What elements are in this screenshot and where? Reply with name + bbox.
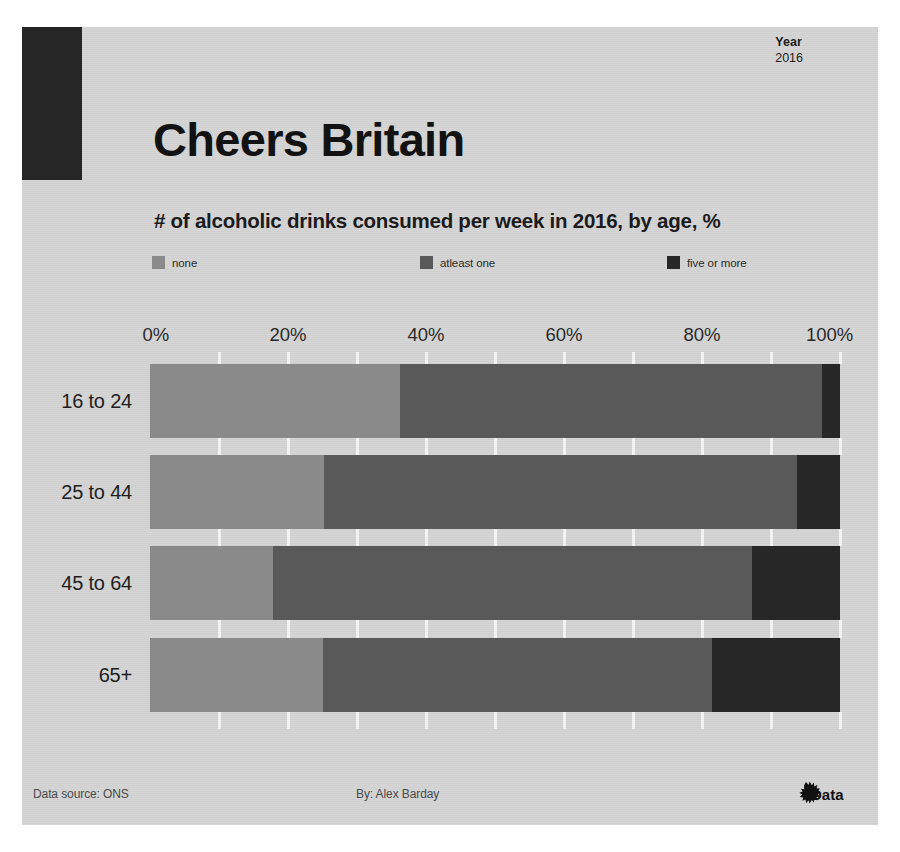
gridline-tick [425,438,428,455]
gridline-tick [839,529,842,546]
gridline-tick [356,712,359,729]
bar-segment-five-or-more[interactable] [797,455,840,529]
bar-group: 65+ [150,638,840,712]
bar-segment-atleast-one[interactable] [400,364,822,438]
year-filter[interactable]: Year 2016 [775,35,803,66]
bar-segment-none[interactable] [150,364,400,438]
gridline-tick [839,712,842,729]
year-value: 2016 [775,51,803,67]
gridline-tick [287,712,290,729]
gridline-tick [632,352,635,364]
gridline-tick [287,352,290,364]
bar-group: 45 to 64 [150,546,840,620]
gridline-tick [218,438,221,455]
y-axis-category-label: 45 to 64 [61,572,132,595]
gridline-tick [356,529,359,546]
gridline-tick [701,352,704,364]
stacked-bar[interactable] [150,364,840,438]
gridline-tick [770,438,773,455]
gridline-tick [770,620,773,637]
gridline-tick [287,529,290,546]
gridline-tick [563,712,566,729]
bar-segment-five-or-more[interactable] [712,638,840,712]
y-axis-category-label: 65+ [99,663,132,686]
gridline-tick [425,620,428,637]
x-axis-tick-label: 100% [806,324,853,346]
legend-swatch-icon [420,256,433,269]
gridline-tick [563,620,566,637]
legend-label: atleast one [440,257,495,269]
bar-segment-none[interactable] [150,638,323,712]
gridline-tick [287,620,290,637]
y-axis-category-label: 16 to 24 [61,390,132,413]
x-axis-tick-label: 60% [545,324,582,346]
gridline-tick [494,620,497,637]
gridline-tick [701,620,704,637]
gridline-tick [701,438,704,455]
gridline-tick [218,620,221,637]
bar-segment-five-or-more[interactable] [822,364,840,438]
bar-segment-none[interactable] [150,455,324,529]
gridline-tick [839,620,842,637]
gridline-tick [494,438,497,455]
gridline-tick [632,712,635,729]
gridline-tick [218,529,221,546]
bar-segment-atleast-one[interactable] [273,546,752,620]
gridline-tick [701,529,704,546]
legend-item-atleast-one[interactable]: atleast one [420,256,495,269]
x-axis-tick-label: 80% [683,324,720,346]
stacked-bar[interactable] [150,638,840,712]
gridline-tick [218,352,221,364]
author-label: By: Alex Barday [356,787,439,801]
chart-subtitle: # of alcoholic drinks consumed per week … [154,209,721,233]
legend-swatch-icon [152,256,165,269]
stacked-bar[interactable] [150,546,840,620]
year-label: Year [775,35,803,51]
gridline-tick [839,352,842,364]
gridline-tick [770,529,773,546]
gridline-tick [770,712,773,729]
bar-segment-five-or-more[interactable] [752,546,840,620]
gridline-tick [632,438,635,455]
bar-segment-atleast-one[interactable] [323,638,711,712]
bar-group: 16 to 24 [150,364,840,438]
legend-item-five-or-more[interactable]: five or more [667,256,747,269]
legend-label: five or more [687,257,747,269]
gridline-tick [770,352,773,364]
gridline-tick [563,438,566,455]
gridline-tick [356,438,359,455]
gridline-tick [287,438,290,455]
gridline-tick [632,529,635,546]
header-accent-block [22,27,82,180]
infographic-canvas: Year 2016 Cheers Britain # of alcoholic … [0,0,900,852]
gridline-tick [632,620,635,637]
gridline-tick [701,712,704,729]
gridline-tick [425,352,428,364]
gridline-tick [356,352,359,364]
stacked-bar[interactable] [150,455,840,529]
legend-swatch-icon [667,256,680,269]
gridline-tick [425,712,428,729]
bar-segment-atleast-one[interactable] [324,455,797,529]
gridline-tick [494,352,497,364]
logo-text: Data [811,786,844,803]
y-axis-category-label: 25 to 44 [61,481,132,504]
page-title: Cheers Britain [153,112,464,167]
x-axis-tick-label: 0% [143,324,170,346]
chart-board: Year 2016 Cheers Britain # of alcoholic … [22,27,878,825]
footer: Data source: ONS By: Alex Barday Data [22,785,878,807]
gridline-tick [494,712,497,729]
gridline-tick [839,438,842,455]
gridline-tick [356,620,359,637]
gridline-tick [425,529,428,546]
x-axis-tick-label: 20% [269,324,306,346]
chart-legend: noneatleast onefive or more [152,256,852,276]
gridline-tick [494,529,497,546]
plot-area: 16 to 2425 to 4445 to 6465+ [150,364,840,722]
gridline-tick [563,529,566,546]
bar-group: 25 to 44 [150,455,840,529]
legend-item-none[interactable]: none [152,256,197,269]
x-axis-tick-label: 40% [407,324,444,346]
data-logo: Data [794,779,864,809]
bar-segment-none[interactable] [150,546,273,620]
